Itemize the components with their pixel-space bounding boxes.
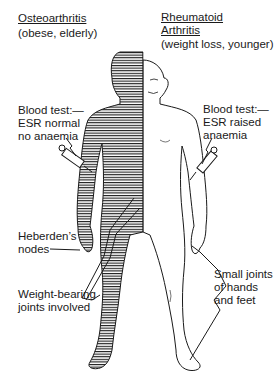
weight-bearing-line2: joints involved <box>18 301 90 314</box>
heberden-line2: nodes <box>18 243 49 256</box>
ra-blood-test-line1: Blood test:— <box>203 103 269 116</box>
osteoarthritis-half <box>77 52 143 369</box>
rheumatoid-subtitle: (weight loss, younger) <box>161 38 274 51</box>
rheumatoid-title-1-text: Rheumatoid <box>161 11 223 23</box>
heberden-line1: Heberden’s <box>18 230 77 243</box>
rheumatoid-title-1: Rheumatoid <box>161 11 223 24</box>
osteoarthritis-title: Osteoarthritis <box>18 12 86 25</box>
osteoarthritis-title-text: Osteoarthritis <box>18 12 86 24</box>
rheumatoid-title-2: Arthritis <box>161 24 200 37</box>
small-joints-line1: Small joints <box>214 268 273 281</box>
ra-blood-test-line3: anaemia <box>203 129 247 142</box>
small-joints-line3: and feet <box>214 294 256 307</box>
oa-blood-test-line3: no anaemia <box>18 130 78 143</box>
split-body-figure <box>0 0 279 385</box>
small-joints-line2: of hands <box>214 281 258 294</box>
oa-blood-test-line1: Blood test:— <box>18 104 84 117</box>
rheumatoid-title-2-text: Arthritis <box>161 24 200 36</box>
osteoarthritis-subtitle: (obese, elderly) <box>18 27 97 40</box>
rheumatoid-half <box>143 60 207 371</box>
weight-bearing-line1: Weight-bearing <box>18 288 96 301</box>
oa-blood-test-line2: ESR normal <box>18 117 80 130</box>
ra-blood-test-line2: ESR raised <box>203 116 261 129</box>
